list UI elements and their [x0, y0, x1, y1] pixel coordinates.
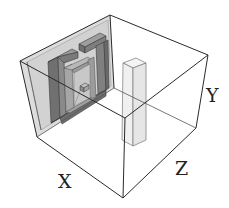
axis-label-x: X [58, 170, 72, 192]
axis-label-z: Z [175, 157, 188, 179]
axis-label-y: Y [205, 84, 219, 106]
3d-box-diagram: X Y Z [0, 0, 229, 208]
